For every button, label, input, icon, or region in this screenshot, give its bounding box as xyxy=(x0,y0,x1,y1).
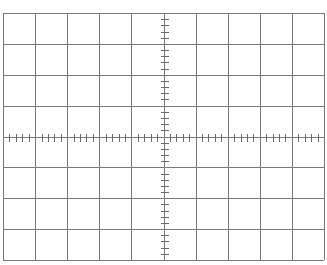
oscilloscope-graticule xyxy=(0,0,327,265)
